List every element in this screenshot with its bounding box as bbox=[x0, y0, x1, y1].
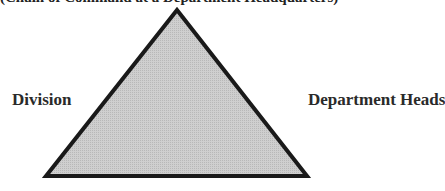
division-label: Division bbox=[12, 90, 72, 110]
department-heads-label: Department Heads bbox=[308, 90, 445, 110]
